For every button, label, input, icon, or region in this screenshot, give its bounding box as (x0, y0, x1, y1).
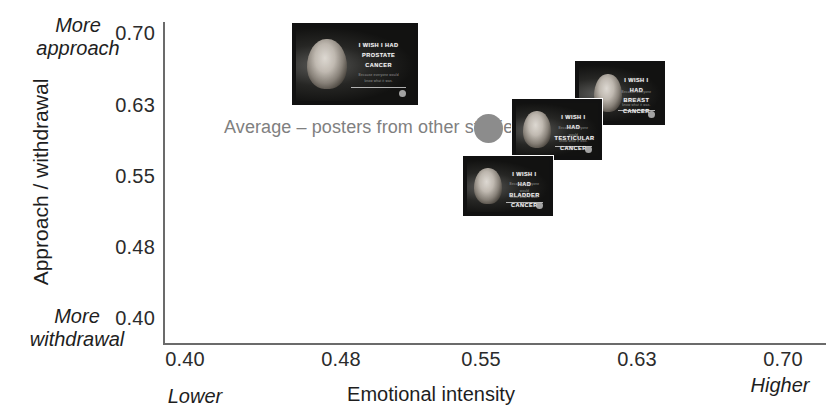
poster-body-testicular: Because everyone would know what it was. (555, 125, 593, 144)
y-tick-label-1: 0.63 (97, 94, 155, 117)
poster-background-testicular: I WISH I HAD TESTICULAR CANCER Because e… (516, 103, 598, 156)
portrait-face-icon (307, 39, 347, 89)
x-axis-high-anchor: Higher (735, 374, 825, 397)
y-axis-line (163, 22, 165, 345)
portrait-face-icon (474, 168, 502, 203)
poster-body-line1: Because everyone would (506, 181, 544, 194)
x-tick-label-0: 0.40 (140, 348, 230, 371)
poster-body-line2: know what it was. (555, 138, 593, 144)
poster-headline-prostate: I WISH I HAD PROSTATE CANCER (351, 40, 405, 71)
data-point-poster-bladder: I WISH I HAD BLADDER CANCER Because ever… (462, 155, 554, 217)
x-axis-line (163, 343, 826, 345)
poster-background-bladder: I WISH I HAD BLADDER CANCER Because ever… (467, 160, 549, 212)
y-tick-label-2: 0.55 (97, 165, 155, 188)
x-axis-title: Emotional intensity (331, 383, 531, 406)
x-tick-label-3: 0.63 (592, 348, 682, 371)
data-point-poster-testicular: I WISH I HAD TESTICULAR CANCER Because e… (511, 98, 603, 161)
portrait-face-icon (523, 111, 551, 147)
x-axis-low-anchor: Lower (150, 385, 240, 408)
x-tick-label-2: 0.55 (436, 348, 526, 371)
y-axis-high-anchor-line2: approach (18, 37, 138, 60)
poster-body-line2: know what it was. (351, 78, 405, 84)
y-axis-low-anchor-line1: More (2, 305, 152, 328)
y-axis-low-anchor-line2: withdrawal (2, 328, 152, 351)
y-axis-low-anchor: More withdrawal (2, 305, 152, 351)
charity-logo-icon (648, 111, 655, 118)
poster-headline-line1: I WISH I HAD (351, 40, 405, 50)
y-axis-high-anchor-line1: More (18, 14, 138, 37)
data-point-poster-prostate: I WISH I HAD PROSTATE CANCER Because eve… (291, 22, 419, 106)
poster-headline-line2: PROSTATE (351, 50, 405, 60)
poster-body-line2: know what it was. (618, 102, 656, 108)
poster-headline-line3: CANCER (351, 60, 405, 70)
poster-body-prostate: Because everyone would know what it was. (351, 72, 405, 85)
charity-logo-icon (399, 90, 406, 97)
poster-background-prostate: I WISH I HAD PROSTATE CANCER Because eve… (296, 27, 414, 101)
poster-divider-rule (351, 87, 405, 88)
y-axis-high-anchor: More approach (18, 14, 138, 60)
y-tick-label-3: 0.48 (97, 236, 155, 259)
poster-body-line1: Because everyone would (555, 125, 593, 138)
poster-body-line2: know what it was. (506, 194, 544, 200)
poster-body-breast: Because everyone would know what it was. (618, 89, 656, 108)
y-axis-title: Approach / withdrawal (29, 57, 53, 307)
average-data-point-marker (474, 114, 503, 143)
scatter-plot-figure: 0.70 0.63 0.55 0.48 0.40 0.40 0.48 0.55 … (0, 0, 831, 416)
x-tick-label-4: 0.70 (738, 348, 828, 371)
x-tick-label-1: 0.48 (296, 348, 386, 371)
poster-body-line1: Because everyone would (618, 89, 656, 102)
poster-body-bladder: Because everyone would know what it was. (506, 181, 544, 200)
